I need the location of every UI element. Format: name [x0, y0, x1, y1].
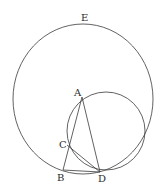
label-a: A — [73, 87, 82, 98]
outer-circle — [13, 24, 153, 174]
label-c: C — [59, 139, 67, 150]
label-e: E — [81, 12, 88, 23]
label-b: B — [57, 172, 64, 183]
segment-cd — [67, 145, 100, 172]
segment-ad — [82, 97, 100, 172]
label-d: D — [98, 173, 106, 184]
geometry-diagram: E A C B D — [0, 0, 165, 195]
segment-bd — [63, 170, 100, 172]
inner-circle — [67, 92, 145, 170]
diagram-canvas: E A C B D — [0, 0, 165, 195]
